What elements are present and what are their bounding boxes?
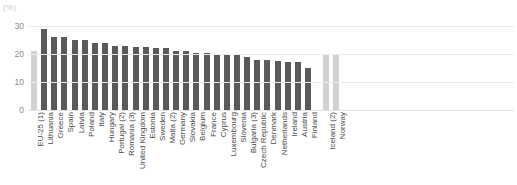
bar — [133, 47, 139, 110]
x-axis-tick-label: Malta (2) — [169, 112, 176, 184]
bar-chart: (%) 0102030 EU-25 (1)LithuaniaGreeceSpai… — [0, 0, 517, 185]
bar — [285, 62, 291, 110]
bar — [122, 46, 128, 110]
gridline — [28, 110, 514, 111]
bar — [275, 61, 281, 110]
x-axis-tick-label: Spain — [67, 112, 74, 184]
x-axis-tick-label: EU-25 (1) — [37, 112, 44, 184]
x-axis-tick-label: Poland — [88, 112, 95, 184]
x-axis-tick-label: Italy — [98, 112, 105, 184]
bar — [305, 68, 311, 110]
bar — [51, 37, 57, 110]
y-axis-tick-label: 10 — [0, 77, 24, 87]
x-axis-tick-label: Hungary — [108, 112, 115, 184]
x-axis-labels: EU-25 (1)LithuaniaGreeceSpainLatviaPolan… — [28, 112, 514, 184]
x-axis-tick-label: Sweden — [159, 112, 166, 184]
bar — [143, 47, 149, 110]
x-axis-tick-label: Germany — [179, 112, 186, 184]
x-axis-tick-label: United Kingdom — [139, 112, 146, 184]
bar — [264, 60, 270, 110]
bar — [183, 51, 189, 110]
x-axis-tick-label: Denmark — [270, 112, 277, 184]
bar — [173, 51, 179, 110]
x-axis-tick-label: Finland — [311, 112, 318, 184]
x-axis-tick-label: Lithuania — [47, 112, 54, 184]
y-axis-tick-label: 30 — [0, 21, 24, 31]
bar — [102, 43, 108, 110]
gridline — [28, 82, 514, 83]
bar — [31, 51, 37, 110]
x-axis-tick-label: Netherlands — [281, 112, 288, 184]
x-axis-tick-label: Norway — [339, 112, 346, 184]
x-axis-tick-label: Iceland (2) — [329, 112, 336, 184]
x-axis-tick-label: Estonia — [149, 112, 156, 184]
unit-label: (%) — [3, 3, 16, 12]
bar — [295, 62, 301, 110]
bar-series — [28, 26, 514, 110]
bar — [41, 29, 47, 110]
y-axis-tick-label: 20 — [0, 49, 24, 59]
x-axis-tick-label: France — [210, 112, 217, 184]
bar — [163, 48, 169, 110]
x-axis-tick-label: Czech Republic — [260, 112, 267, 184]
x-axis-tick-label: Belgium — [199, 112, 206, 184]
gridline — [28, 54, 514, 55]
x-axis-tick-label: Portugal (2) — [118, 112, 125, 184]
x-axis-tick-label: Bulgaria (3) — [250, 112, 257, 184]
x-axis-tick-label: Greece — [57, 112, 64, 184]
bar — [82, 40, 88, 110]
y-axis: 0102030 — [0, 26, 24, 110]
bar — [244, 57, 250, 110]
x-axis-tick-label: Romania (3) — [128, 112, 135, 184]
bar — [112, 46, 118, 110]
bar — [254, 60, 260, 110]
bar — [153, 48, 159, 110]
x-axis-tick-label: Slovakia — [189, 112, 196, 184]
x-axis-tick-label: Cyprus — [220, 112, 227, 184]
plot-area — [28, 26, 514, 110]
gridline — [28, 26, 514, 27]
x-axis-tick-label: Luxembourg — [230, 112, 237, 184]
bar — [61, 37, 67, 110]
x-axis-tick-label: Latvia — [78, 112, 85, 184]
x-axis-tick-label: Austria — [301, 112, 308, 184]
y-axis-tick-label: 0 — [0, 105, 24, 115]
x-axis-tick-label: Slovenia — [240, 112, 247, 184]
x-axis-tick-label: Ireland — [291, 112, 298, 184]
bar — [72, 40, 78, 110]
bar — [92, 43, 98, 110]
